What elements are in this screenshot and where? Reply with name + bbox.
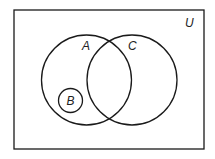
set-b-label: B <box>67 94 75 108</box>
set-c-label: C <box>128 39 137 53</box>
universe-label: U <box>185 16 194 30</box>
set-a-label: A <box>81 39 90 53</box>
universe-rectangle <box>14 10 204 149</box>
venn-diagram: U A C B <box>0 0 215 159</box>
